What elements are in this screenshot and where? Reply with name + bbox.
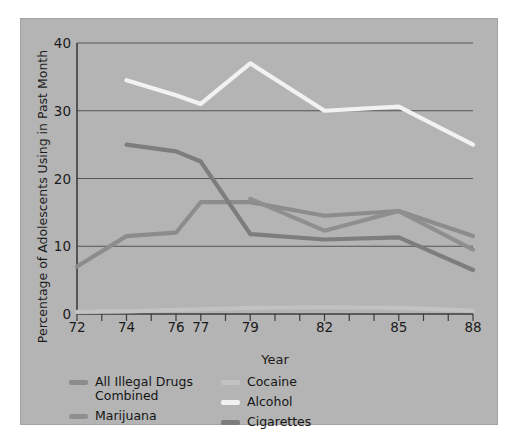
series-line-alcohol	[127, 63, 474, 144]
x-tick-label-79: 79	[242, 319, 259, 335]
x-tick-label-74: 74	[118, 319, 135, 335]
legend-item-marijuana[interactable]: Marijuana	[69, 409, 193, 423]
x-tick-label-77: 77	[192, 319, 209, 335]
legend-label-cocaine: Cocaine	[247, 375, 297, 389]
legend-swatch-cigarettes	[221, 420, 240, 425]
legend-item-cigarettes[interactable]: Cigarettes	[221, 415, 311, 429]
legend-label-cigarettes: Cigarettes	[247, 415, 311, 429]
x-tick-label-88: 88	[464, 319, 481, 335]
legend-column-2: CocaineAlcoholCigarettes	[221, 375, 311, 429]
series-line-cocaine	[77, 307, 473, 312]
legend-label-all-illegal-drugs: All Illegal Drugs Combined	[95, 375, 193, 403]
legend-swatch-all-illegal-drugs	[69, 380, 88, 385]
legend-swatch-marijuana	[69, 414, 88, 419]
legend-item-alcohol[interactable]: Alcohol	[221, 395, 311, 409]
chart-legend: All Illegal Drugs CombinedMarijuanaCocai…	[69, 375, 469, 429]
legend-label-alcohol: Alcohol	[247, 395, 293, 409]
legend-label-marijuana: Marijuana	[95, 409, 157, 423]
x-tick-label-82: 82	[316, 319, 333, 335]
y-tick-label-40: 40	[54, 35, 71, 51]
y-tick-label-10: 10	[54, 238, 71, 254]
x-axis-title: Year	[77, 352, 473, 367]
y-axis-title: Percentage of Adolescents Using in Past …	[33, 61, 53, 332]
plot-svg	[77, 43, 473, 314]
legend-column-1: All Illegal Drugs CombinedMarijuana	[69, 375, 193, 429]
y-axis-title-text: Percentage of Adolescents Using in Past …	[36, 50, 51, 343]
chart-figure: Percentage of Adolescents Using in Past …	[20, 18, 498, 425]
legend-swatch-alcohol	[221, 400, 240, 405]
legend-item-all-illegal-drugs[interactable]: All Illegal Drugs Combined	[69, 375, 193, 403]
legend-item-cocaine[interactable]: Cocaine	[221, 375, 311, 389]
y-tick-label-20: 20	[54, 171, 71, 187]
legend-swatch-cocaine	[221, 380, 240, 385]
x-tick-label-76: 76	[167, 319, 184, 335]
x-tick-label-72: 72	[68, 319, 85, 335]
y-tick-label-30: 30	[54, 103, 71, 119]
x-tick-label-85: 85	[390, 319, 407, 335]
plot-area: 0102030407274767779828588	[77, 43, 473, 314]
series-line-cigarettes	[127, 145, 474, 270]
